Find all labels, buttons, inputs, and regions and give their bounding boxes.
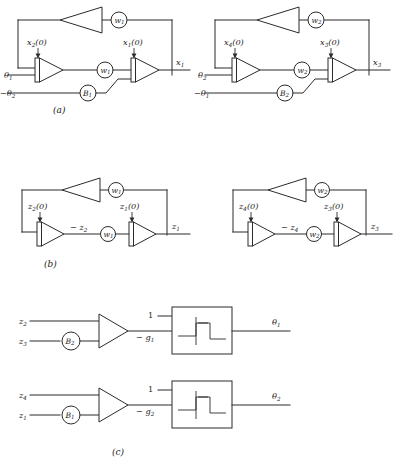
b-inverting-amplifier-triangle — [62, 178, 100, 202]
panel-c-bottom-circuit: B1 — [30, 381, 290, 428]
inverting-amplifier-triangle-r — [257, 7, 299, 33]
integrator4-triangle — [333, 58, 357, 82]
figure-canvas: w1 w1 B1 θ1 — [0, 0, 394, 472]
x2-ic-label: x2(0) — [27, 37, 47, 48]
theta1-input-label: θ1 — [4, 70, 13, 81]
b-z2-ic-label: z2(0) — [27, 201, 48, 212]
b-integrator2-input-bar — [129, 222, 134, 246]
b-integrator3-input-bar — [248, 222, 253, 246]
caption-b: (b) — [44, 259, 57, 269]
b-integrator1-input-bar — [37, 222, 42, 246]
integrator2-input-bar — [131, 58, 136, 82]
b-z3-output-label: z3 — [370, 221, 379, 232]
c-z4-input-label: z4 — [18, 390, 27, 401]
b-integrator2-triangle — [134, 222, 157, 246]
c-theta2-output-label: θ2 — [272, 391, 281, 402]
b-inverting-amplifier-triangle-r — [268, 178, 306, 202]
c-z3-input-label: z3 — [18, 336, 27, 347]
panel-b-right-circuit: w2 w2 — [233, 178, 392, 246]
theta2-input-label: θ2 — [198, 70, 207, 81]
c-theta1-output-label: θ1 — [272, 317, 281, 328]
integrator3-triangle — [237, 58, 261, 82]
c-z1-input-label: z1 — [18, 410, 27, 421]
block-diagram-svg: w1 w1 B1 θ1 — [0, 0, 394, 472]
b-integrator4-input-bar — [334, 222, 339, 246]
b-z1-ic-label: z1(0) — [119, 201, 140, 212]
hysteresis-relay-block-bottom — [172, 381, 232, 428]
b-integrator3-triangle — [253, 222, 276, 246]
x3-ic-label: x3(0) — [320, 37, 340, 48]
x1-output-label: x1 — [176, 57, 184, 68]
b-z1-output-label: z1 — [171, 221, 180, 232]
c-summing-amplifier-triangle-bottom — [99, 388, 128, 422]
b-neg-z4-signal-label: − z4 — [281, 222, 299, 233]
c-neg-g2-input-label: − g2 — [136, 406, 155, 417]
panel-b-left-circuit: w1 w1 — [22, 178, 190, 246]
B1-to-integrator2-wire — [96, 79, 131, 93]
b-neg-z2-signal-label: − z2 — [70, 222, 88, 233]
caption-a: (a) — [53, 105, 66, 115]
b-integrator1-triangle — [42, 222, 65, 246]
panel-a-left-circuit: w1 w1 B1 — [8, 7, 190, 101]
integrator1-triangle — [40, 58, 64, 82]
integrator3-input-bar — [232, 58, 237, 82]
B2-to-integrator4-wire — [293, 79, 328, 93]
c-z2-input-label: z2 — [18, 316, 27, 327]
c-unity-input-label-bottom: 1 — [148, 384, 153, 394]
c-unity-input-label: 1 — [148, 310, 153, 320]
x3-output-label: x3 — [373, 57, 382, 68]
x1-ic-label: x1(0) — [123, 37, 143, 48]
x4-ic-label: x4(0) — [224, 37, 244, 48]
inverting-amplifier-triangle — [60, 7, 102, 33]
b-z4-ic-label: z4(0) — [238, 201, 259, 212]
panel-a-right-circuit: w2 w2 B2 — [205, 7, 390, 101]
b-z3-ic-label: z3(0) — [323, 201, 344, 212]
integrator1-input-bar — [35, 58, 40, 82]
c-summing-amplifier-triangle — [99, 314, 128, 348]
integrator4-input-bar — [328, 58, 333, 82]
c-neg-g1-input-label: − g1 — [136, 332, 154, 343]
b-integrator4-triangle — [339, 222, 362, 246]
panel-c-top-circuit: B2 — [30, 307, 290, 354]
neg-theta2-input-label: −θ2 — [0, 88, 16, 99]
integrator2-triangle — [136, 58, 160, 82]
caption-c: (c) — [112, 447, 125, 457]
hysteresis-relay-block-top — [172, 307, 232, 354]
neg-theta1-input-label: −θ1 — [194, 88, 209, 99]
